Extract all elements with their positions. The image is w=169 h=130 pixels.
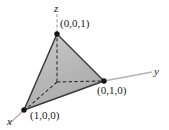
vertex-dot-y [101,78,106,83]
vertex-dot-x [21,107,26,112]
face-front [24,34,104,110]
tetrahedron-faces [24,34,104,110]
axis-label-x: x [7,116,12,127]
y-axis-line [104,72,152,81]
vertex-label-010: (0,1,0) [97,85,126,96]
vertex-label-100: (1,0,0) [30,110,59,121]
axis-label-y: y [154,66,159,77]
vertex-label-001: (0,0,1) [60,18,89,29]
figure-container: z y x (0,0,1) (0,1,0) (1,0,0) [0,0,169,130]
axis-label-z: z [54,3,58,14]
vertex-dot-z [54,31,59,36]
